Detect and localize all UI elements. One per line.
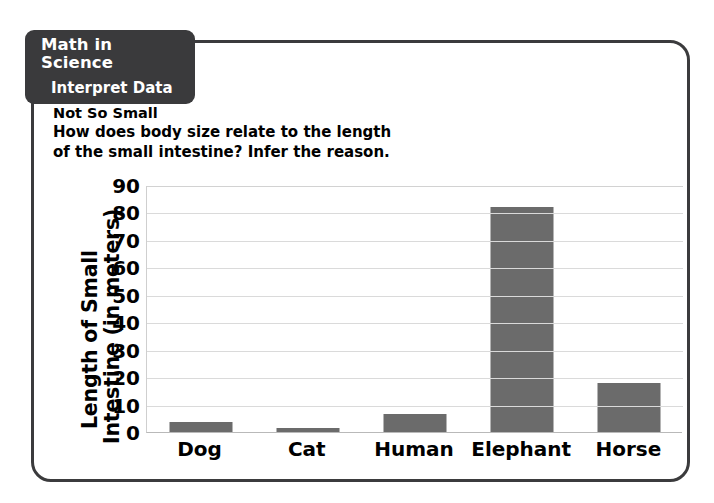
gridline	[147, 378, 683, 379]
gridline	[147, 241, 683, 242]
intro-heading: Not So Small	[53, 104, 473, 123]
gridline	[147, 186, 683, 187]
intro-line-1: How does body size relate to the length	[53, 123, 473, 143]
y-tick-label: 70	[112, 231, 140, 251]
bar	[383, 414, 446, 432]
section-tab-subtitle: Interpret Data	[25, 77, 195, 104]
intro-line-2: of the small intestine? Infer the reason…	[53, 143, 473, 163]
intro-text: Not So Small How does body size relate t…	[53, 104, 473, 163]
y-tick-label: 90	[112, 176, 140, 196]
bar	[598, 383, 661, 432]
x-tick-label: Elephant	[468, 437, 575, 461]
gridline	[147, 268, 683, 269]
x-tick-label: Dog	[146, 437, 253, 461]
bar-slot	[361, 185, 468, 432]
section-tab: Math in Science Interpret Data	[25, 30, 195, 104]
y-tick-label: 50	[112, 286, 140, 306]
bar-slot	[469, 185, 576, 432]
plot-area	[146, 186, 682, 433]
gridline	[147, 351, 683, 352]
gridline	[147, 296, 683, 297]
y-axis-title: Length of Small Intestine (in meters)	[56, 186, 96, 441]
bar-slot	[147, 185, 254, 432]
section-tab-title: Math in Science	[25, 30, 195, 77]
y-tick-label: 30	[112, 341, 140, 361]
bar-slot	[576, 185, 683, 432]
gridline	[147, 213, 683, 214]
bar	[276, 428, 339, 432]
bar-group	[147, 185, 683, 432]
y-tick-label: 20	[112, 368, 140, 388]
y-tick-label: 0	[126, 423, 140, 443]
y-tick-label: 60	[112, 258, 140, 278]
y-tick-label: 10	[112, 396, 140, 416]
y-tick-label: 40	[112, 313, 140, 333]
gridline	[147, 406, 683, 407]
x-axis-tick-labels: DogCatHumanElephantHorse	[146, 437, 682, 467]
bar-slot	[254, 185, 361, 432]
y-tick-label: 80	[112, 203, 140, 223]
x-tick-label: Human	[360, 437, 467, 461]
bar	[169, 422, 232, 432]
x-tick-label: Cat	[253, 437, 360, 461]
y-axis-tick-labels: 0102030405060708090	[96, 176, 140, 444]
x-tick-label: Horse	[575, 437, 682, 461]
gridline	[147, 323, 683, 324]
